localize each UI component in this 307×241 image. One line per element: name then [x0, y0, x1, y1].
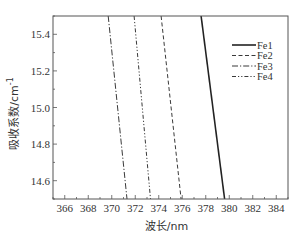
series-fe4: [134, 16, 150, 199]
y-tick-label: 15.4: [31, 28, 51, 40]
legend-label-fe2: Fe2: [257, 50, 273, 61]
y-axis-title: 吸收系数/cm-1: [6, 77, 21, 149]
series-fe2: [161, 16, 181, 199]
series-fe1: [201, 16, 225, 199]
y-axis-title-superscript: -1: [6, 77, 15, 85]
legend-label-fe1: Fe1: [257, 40, 273, 51]
plot-frame: [53, 16, 288, 199]
legend-label-fe3: Fe3: [257, 61, 273, 72]
x-tick-label: 372: [127, 202, 144, 214]
x-tick-label: 370: [104, 202, 121, 214]
legend-label-fe4: Fe4: [257, 71, 274, 82]
x-tick-label: 384: [268, 202, 285, 214]
svg-text:吸收系数/cm-1: 吸收系数/cm-1: [6, 77, 21, 149]
chart: 366368370372374376378380382384 14.614.81…: [0, 0, 307, 241]
x-tick-label: 382: [245, 202, 262, 214]
x-tick-label: 368: [80, 202, 97, 214]
x-tick-label: 376: [174, 202, 191, 214]
y-tick-label: 15.2: [31, 65, 50, 77]
series-fe3: [108, 16, 127, 199]
x-tick-label: 374: [151, 202, 168, 214]
x-tick-label: 380: [221, 202, 238, 214]
series-layer: [108, 16, 224, 199]
x-tick-label: 366: [57, 202, 74, 214]
y-axis-title-text: 吸收系数/cm: [7, 85, 21, 149]
y-tick-label: 14.6: [31, 175, 51, 187]
legend: Fe1Fe2Fe3Fe4: [232, 40, 274, 83]
x-axis-ticks: 366368370372374376378380382384: [53, 195, 288, 214]
x-axis-title: 波长/nm: [145, 220, 188, 233]
x-tick-label: 378: [198, 202, 215, 214]
y-tick-label: 15.0: [31, 102, 51, 114]
y-tick-label: 14.8: [31, 138, 51, 150]
